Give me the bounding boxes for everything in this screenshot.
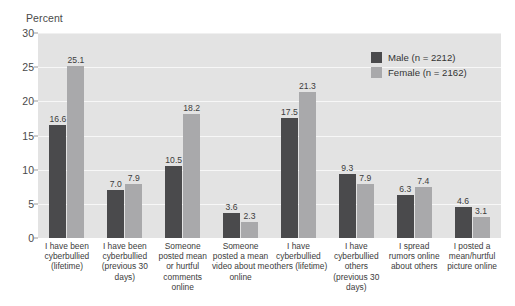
y-axis-tick-label: 30 [4, 27, 34, 39]
x-axis-category-label: I posted a mean/hurtful picture online [443, 241, 501, 272]
y-axis-tick-label: 0 [4, 232, 34, 244]
x-axis-category-label: Someone posted a mean video about me onl… [212, 241, 270, 282]
bar-female [241, 222, 258, 238]
cyberbullying-bar-chart: Percent 051015202530 16.625.17.07.910.51… [0, 0, 515, 306]
bar-female [299, 92, 316, 238]
legend-label: Female (n = 2162) [388, 67, 467, 78]
y-axis-tick-label: 25 [4, 61, 34, 73]
bar-value-label: 10.5 [165, 155, 182, 165]
legend-swatch-icon [371, 67, 382, 78]
gridline [38, 33, 501, 34]
y-axis-tick-label: 5 [4, 198, 34, 210]
bar-male [49, 125, 66, 238]
bar-value-label: 3.6 [226, 202, 238, 212]
bar-male [455, 207, 472, 238]
y-axis-tick-label: 15 [4, 130, 34, 142]
bar-male [223, 213, 240, 238]
bar-female [357, 184, 374, 238]
bar-male [165, 166, 182, 238]
bar-value-label: 9.3 [341, 163, 353, 173]
bar-male [339, 174, 356, 238]
bar-female [183, 114, 200, 238]
bar-male [281, 118, 298, 238]
bar-value-label: 7.9 [359, 173, 371, 183]
bar-female [415, 187, 432, 238]
bar-value-label: 4.6 [457, 196, 469, 206]
y-axis-ticks: 051015202530 [0, 33, 34, 238]
bar-male [397, 195, 414, 238]
x-axis-category-label: Someone posted mean or hurtful comments … [154, 241, 212, 292]
legend: Male (n = 2212)Female (n = 2162) [371, 52, 511, 82]
gridline [38, 170, 501, 171]
x-axis-category-label: I spread rumors online about others [385, 241, 443, 272]
x-axis-category-label: I have cyberbullied others (lifetime) [270, 241, 328, 272]
bar-female [67, 66, 84, 238]
legend-label: Male (n = 2212) [388, 52, 455, 63]
bar-female [125, 184, 142, 238]
y-axis-title: Percent [26, 12, 63, 24]
y-axis-tick-label: 20 [4, 95, 34, 107]
bar-value-label: 6.3 [399, 184, 411, 194]
legend-item: Male (n = 2212) [371, 52, 511, 63]
bar-value-label: 7.0 [110, 179, 122, 189]
bar-female [473, 217, 490, 238]
bar-male [107, 190, 124, 238]
y-axis-tick-label: 10 [4, 164, 34, 176]
bar-value-label: 3.1 [475, 206, 487, 216]
legend-swatch-icon [371, 52, 382, 63]
bar-value-label: 18.2 [183, 103, 200, 113]
gridline [38, 136, 501, 137]
x-axis-category-label: I have been cyberbullied (previous 30 da… [96, 241, 154, 282]
bar-value-label: 17.5 [281, 107, 298, 117]
bar-value-label: 21.3 [299, 81, 316, 91]
x-axis-category-label: I have been cyberbullied (lifetime) [38, 241, 96, 272]
gridline [38, 101, 501, 102]
bar-value-label: 7.9 [128, 173, 140, 183]
x-axis-category-label: I have cyberbullied others (previous 30 … [327, 241, 385, 292]
bar-value-label: 2.3 [244, 211, 256, 221]
x-axis-category-labels: I have been cyberbullied (lifetime)I hav… [38, 241, 501, 305]
bar-value-label: 25.1 [68, 55, 85, 65]
bar-value-label: 7.4 [417, 176, 429, 186]
bar-value-label: 16.6 [50, 114, 67, 124]
legend-item: Female (n = 2162) [371, 67, 511, 78]
